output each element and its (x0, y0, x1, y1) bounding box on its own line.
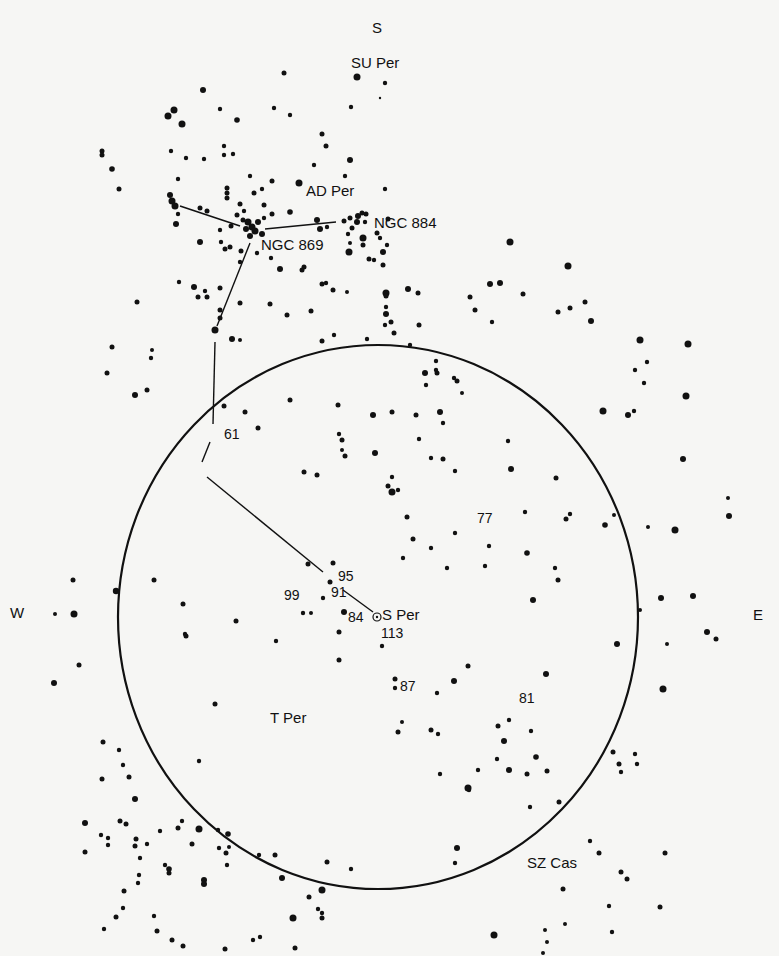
star-dot-icon (155, 929, 160, 934)
star-dot-icon (218, 107, 222, 111)
star-dot-icon (367, 257, 372, 262)
star-dot-icon (553, 566, 557, 570)
star-dot-icon (122, 889, 127, 894)
star-dot-icon (460, 391, 464, 395)
label-star-113: 113 (381, 625, 404, 641)
star-dot-icon (588, 839, 592, 843)
star-dot-icon (453, 531, 457, 535)
star-dot-icon (557, 800, 562, 805)
star-dot-icon (393, 686, 397, 690)
star-dot-icon (365, 337, 369, 341)
label-star-95: 95 (338, 568, 354, 584)
label-ngc-869: NGC 869 (261, 236, 324, 253)
star-dot-icon (541, 951, 545, 955)
star-dot-icon (205, 295, 210, 300)
star-dot-icon (287, 209, 293, 215)
star-dot-icon (611, 750, 616, 755)
star-dot-icon (181, 602, 186, 607)
star-dot-icon (222, 144, 226, 148)
star-dot-icon (658, 905, 663, 910)
star-dot-icon (268, 302, 273, 307)
star-dot-icon (340, 448, 344, 452)
star-dot-icon (646, 525, 650, 529)
star-dot-icon (309, 309, 314, 314)
star-dot-icon (235, 213, 240, 218)
star-dot-icon (337, 432, 341, 436)
star-dot-icon (370, 412, 376, 418)
star-dot-icon (83, 850, 88, 855)
star-dot-icon (201, 881, 207, 887)
star-dot-icon (252, 228, 259, 235)
star-dot-icon (554, 476, 559, 481)
star-dot-icon (507, 239, 514, 246)
star-dot-icon (234, 619, 239, 624)
star-dot-icon (223, 947, 228, 952)
star-dot-icon (545, 940, 549, 944)
star-dot-icon (269, 256, 273, 260)
star-dot-icon (434, 368, 438, 372)
star-dot-icon (218, 308, 223, 313)
star-dot-icon (320, 339, 325, 344)
star-dot-icon (507, 718, 511, 722)
star-dot-icon (252, 191, 257, 196)
star-dot-icon (165, 113, 172, 120)
star-dot-icon (132, 796, 138, 802)
star-dot-icon (191, 284, 197, 290)
star-dot-icon (296, 180, 303, 187)
star-dot-icon (429, 546, 433, 550)
star-dot-icon (445, 566, 449, 570)
label-star-91: 91 (331, 584, 347, 600)
star-dot-icon (99, 833, 103, 837)
star-dot-icon (205, 209, 210, 214)
star-dot-icon (121, 763, 125, 767)
label-star-61: 61 (224, 426, 240, 442)
star-dot-icon (524, 550, 530, 556)
star-dot-icon (389, 489, 396, 496)
star-dot-icon (354, 219, 360, 225)
star-dot-icon (490, 320, 494, 324)
star-dot-icon (288, 113, 292, 117)
variable-star-marker-icon (373, 613, 381, 621)
star-dot-icon (565, 263, 572, 270)
star-dot-icon (424, 383, 428, 387)
star-dot-icon (293, 946, 298, 951)
star-dot-icon (441, 421, 445, 425)
star-dot-icon (319, 887, 326, 894)
star-dot-icon (361, 243, 366, 248)
star-dot-icon (179, 121, 186, 128)
star-dot-icon (184, 156, 188, 160)
star-dot-icon (196, 826, 203, 833)
star-dot-icon (203, 289, 207, 293)
star-dot-icon (380, 249, 386, 255)
star-dot-icon (380, 644, 384, 648)
star-dot-icon (564, 517, 569, 522)
star-dot-icon (348, 216, 353, 221)
star-dot-icon (466, 664, 471, 669)
star-dot-icon (347, 157, 353, 163)
star-dot-icon (476, 768, 480, 772)
star-dot-icon (342, 219, 347, 224)
star-dot-icon (372, 258, 376, 262)
star-dot-icon (438, 772, 442, 776)
star-dot-icon (543, 671, 549, 677)
star-dot-icon (408, 343, 412, 347)
star-dot-icon (238, 260, 242, 264)
star-dot-icon (106, 836, 110, 840)
star-dot-icon (588, 318, 594, 324)
star-dot-icon (105, 371, 110, 376)
star-dot-icon (320, 282, 325, 287)
star-dot-icon (171, 107, 178, 114)
star-dot-icon (583, 300, 588, 305)
star-dot-icon (251, 938, 255, 942)
star-dot-icon (270, 179, 275, 184)
star-dot-icon (508, 466, 514, 472)
star-dot-icon (282, 71, 287, 76)
star-dot-icon (127, 775, 132, 780)
star-dot-icon (106, 843, 110, 847)
star-dot-icon (212, 327, 219, 334)
star-dot-icon (167, 192, 173, 198)
label-star-77: 77 (477, 510, 493, 526)
star-dot-icon (197, 759, 201, 763)
star-dot-icon (277, 266, 283, 272)
star-dot-icon (325, 225, 329, 229)
